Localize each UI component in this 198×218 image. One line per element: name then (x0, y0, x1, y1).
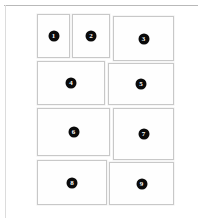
card-number-badge: 4 (66, 78, 77, 89)
card-number-badge: 3 (138, 33, 149, 44)
card-number-badge: 7 (138, 129, 149, 140)
card-placeholder[interactable]: 1 (37, 14, 70, 58)
card-number-badge: 1 (48, 31, 59, 42)
card-placeholder[interactable]: 6 (37, 108, 110, 156)
card-placeholder[interactable]: 8 (37, 160, 107, 205)
card-number-badge: 2 (86, 31, 97, 42)
card-placeholder[interactable]: 3 (113, 16, 174, 61)
card-placeholder[interactable]: 4 (37, 61, 105, 105)
card-placeholder[interactable]: 2 (72, 14, 110, 58)
card-placeholder[interactable]: 9 (109, 162, 174, 205)
card-number-badge: 8 (67, 177, 78, 188)
card-number-badge: 9 (136, 178, 147, 189)
card-placeholder[interactable]: 7 (113, 108, 174, 160)
card-placeholder[interactable]: 5 (108, 63, 174, 105)
page-canvas: 123456789 (0, 0, 198, 218)
card-number-badge: 5 (136, 79, 147, 90)
card-number-badge: 6 (68, 127, 79, 138)
card-grid: 123456789 (0, 0, 198, 218)
